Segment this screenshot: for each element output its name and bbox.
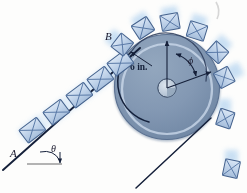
package [222, 159, 240, 179]
package [160, 13, 181, 32]
phi-label: ϕ [188, 55, 193, 66]
theta-label: θ [51, 143, 56, 154]
point-a-label: A [9, 147, 17, 159]
figure-canvas: ϕ 6 in. [0, 0, 247, 193]
point-b-label: B [105, 30, 112, 42]
mechanics-figure: ϕ 6 in. [0, 0, 247, 193]
